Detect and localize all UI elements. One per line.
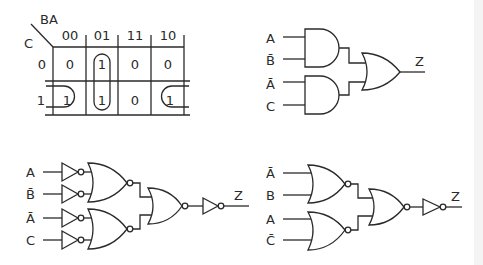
kmap-cell: 0 (131, 57, 139, 72)
nor-inverter-circuit: A B̄ Ā C Z (26, 163, 249, 249)
nor-gate-icon (148, 188, 182, 224)
input-label: C (26, 233, 35, 248)
input-label: C̄ (266, 233, 275, 248)
kmap-cell: 0 (131, 93, 139, 108)
and-gate-icon (305, 29, 339, 67)
input-label: C (266, 99, 275, 114)
kmap-row-header: 0 (38, 57, 46, 72)
kmap-cell: 0 (164, 57, 172, 72)
kmap-cell: 0 (66, 57, 74, 72)
and-gate-icon (305, 76, 339, 114)
nor-gate-icon (308, 165, 345, 203)
and-or-circuit: A B̄ Ā C Z (266, 29, 425, 114)
kmap-col-header: 11 (127, 28, 144, 43)
karnaugh-map: BA C 00 01 11 10 0 1 0 1 0 0 1 1 0 1 (24, 12, 190, 115)
nor-circuit: Ā B A C̄ Z (266, 165, 462, 250)
kmap-row-header: 1 (37, 93, 45, 108)
kmap-col-header: 01 (94, 28, 111, 43)
kmap-diagonal (31, 24, 53, 47)
input-label: B̄ (26, 187, 35, 202)
kmap-cell: 1 (98, 93, 106, 108)
input-label: Ā (26, 211, 35, 226)
input-label: A (266, 31, 275, 46)
output-label: Z (451, 189, 460, 204)
input-label: B (266, 188, 275, 203)
kmap-row-var-label: C (24, 36, 33, 51)
input-label: A (266, 212, 275, 227)
kmap-cell: 1 (98, 57, 106, 72)
kmap-col-header: 00 (62, 28, 79, 43)
output-label: Z (415, 54, 424, 69)
or-gate-icon (362, 53, 400, 90)
nor-gate-icon (88, 209, 127, 249)
input-label: Ā (266, 166, 275, 181)
output-label: Z (234, 188, 243, 203)
kmap-col-var-label: BA (40, 12, 58, 27)
input-label: Ā (266, 77, 275, 92)
inverter-icon (423, 199, 440, 215)
inverter-icon (62, 185, 78, 203)
input-label: A (26, 165, 35, 180)
nor-gate-icon (369, 189, 404, 225)
inverter-icon (203, 198, 218, 214)
nor-gate-icon (88, 163, 127, 202)
inverter-icon (62, 209, 78, 227)
inverter-icon (62, 163, 78, 181)
kmap-col-header: 10 (160, 28, 177, 43)
input-label: B̄ (266, 53, 275, 68)
inverter-icon (62, 231, 78, 249)
nor-gate-icon (308, 212, 345, 250)
